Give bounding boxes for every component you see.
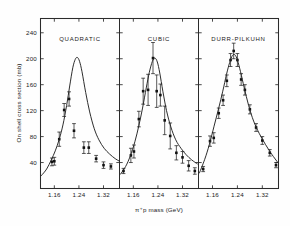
x-axis-label: π⁺p mass (GeV)	[135, 206, 183, 213]
data-point-marker	[194, 170, 197, 173]
y-tick-label: 80	[30, 133, 38, 140]
panel-label-3: DURR-PILKUHN	[211, 36, 265, 42]
y-tick-label: 40	[30, 159, 38, 166]
y-tick-label: 200	[26, 55, 37, 62]
panel-3	[199, 43, 277, 173]
y-tick-label: 240	[26, 29, 37, 36]
data-point-marker	[232, 50, 235, 53]
data-point-marker	[175, 152, 178, 155]
data-point-marker	[83, 146, 86, 149]
figure-container: On shell cross section (mb) π⁺p mass (Ge…	[0, 0, 290, 226]
data-point-marker	[147, 89, 150, 92]
x-tick-label: 1.24	[73, 191, 86, 198]
x-tick-label: 1.32	[97, 191, 110, 198]
y-tick-label: 160	[26, 81, 37, 88]
data-point-marker	[226, 79, 229, 82]
x-tick-label: 1.32	[176, 191, 189, 198]
panel-label-1: QUADRATIC	[59, 36, 101, 42]
x-tick-label: 1.24	[231, 191, 244, 198]
x-tick-label: 1.16	[48, 191, 61, 198]
y-tick-label: 120	[26, 107, 37, 114]
y-tick-mark-group	[41, 33, 279, 163]
panel-label-group: QUADRATICCUBICDURR-PILKUHN	[59, 36, 265, 42]
x-tick-label-group: 1.161.241.321.161.241.321.161.241.32	[48, 191, 269, 198]
data-point-marker	[222, 99, 225, 102]
data-point-marker	[142, 90, 145, 93]
data-point-marker	[163, 119, 166, 122]
data-point-marker	[53, 160, 56, 163]
fit-curve	[199, 54, 277, 173]
data-point-marker	[102, 164, 105, 167]
data-point-marker	[181, 156, 184, 159]
data-point-marker	[73, 129, 76, 132]
data-point-marker	[275, 164, 278, 167]
x-tick-label: 1.16	[206, 191, 219, 198]
data-point-marker	[212, 137, 215, 140]
data-point-marker	[95, 157, 98, 160]
data-point-marker	[133, 150, 136, 153]
data-point-marker	[155, 90, 158, 93]
panel-2	[120, 43, 197, 175]
plot-frame	[41, 19, 279, 189]
data-point-marker	[87, 146, 90, 149]
data-point-marker	[187, 164, 190, 167]
fit-curve	[120, 58, 197, 174]
data-point-marker	[169, 135, 172, 138]
y-tick-label-group: 2402001601208040	[26, 29, 37, 166]
y-axis-label: On shell cross section (mb)	[15, 63, 22, 142]
x-tick-mark-group	[54, 19, 262, 189]
data-point-marker	[110, 165, 113, 168]
data-point-marker	[159, 94, 162, 97]
panel-1	[41, 57, 119, 175]
data-point-marker	[202, 168, 205, 171]
panel-label-2: CUBIC	[148, 36, 170, 42]
x-tick-label: 1.24	[152, 191, 165, 198]
x-tick-label: 1.16	[127, 191, 140, 198]
plot-layer	[41, 43, 277, 176]
data-point-marker	[63, 109, 66, 112]
x-tick-label: 1.32	[256, 191, 269, 198]
figure-svg: On shell cross section (mb) π⁺p mass (Ge…	[0, 0, 290, 226]
